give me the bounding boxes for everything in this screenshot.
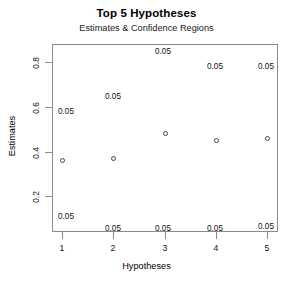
- y-tick-label-2: 0.4: [31, 143, 41, 163]
- data-point-marker-5: [265, 136, 270, 141]
- x-tick-label-0: 1: [52, 243, 72, 253]
- y-tick-label-0: 0.8: [31, 53, 41, 73]
- x-tick-label-2: 3: [155, 243, 175, 253]
- x-tick-mark-4: [267, 232, 268, 239]
- x-tick-label-1: 2: [103, 243, 123, 253]
- confidence-upper-label-3: 0.05: [143, 47, 183, 56]
- x-tick-mark-1: [113, 232, 114, 239]
- confidence-lower-label-5: 0.05: [246, 222, 286, 231]
- confidence-lower-label-2: 0.05: [93, 224, 133, 233]
- data-point-marker-3: [163, 131, 168, 136]
- y-tick-mark-0: [45, 62, 52, 63]
- chart-subtitle: Estimates & Confidence Regions: [0, 23, 293, 33]
- y-tick-label-3: 0.2: [31, 187, 41, 207]
- data-point-marker-2: [111, 156, 116, 161]
- x-axis-title: Hypotheses: [0, 261, 293, 271]
- x-tick-mark-2: [165, 232, 166, 239]
- x-tick-label-3: 4: [206, 243, 226, 253]
- x-tick-mark-0: [62, 232, 63, 239]
- confidence-upper-label-4: 0.05: [195, 62, 235, 71]
- data-point-marker-4: [214, 138, 219, 143]
- plot-area: [52, 44, 278, 232]
- confidence-lower-label-1: 0.05: [46, 212, 86, 221]
- chart-container: Top 5 Hypotheses Estimates & Confidence …: [0, 0, 293, 287]
- confidence-lower-label-4: 0.05: [195, 224, 235, 233]
- x-tick-mark-3: [216, 232, 217, 239]
- confidence-upper-label-2: 0.05: [93, 92, 133, 101]
- confidence-upper-label-5: 0.05: [246, 62, 286, 71]
- chart-title: Top 5 Hypotheses: [0, 7, 293, 19]
- y-axis-title: Estimates: [7, 96, 17, 176]
- confidence-upper-label-1: 0.05: [46, 107, 86, 116]
- confidence-lower-label-3: 0.05: [143, 224, 183, 233]
- y-tick-mark-3: [45, 196, 52, 197]
- y-tick-mark-2: [45, 152, 52, 153]
- data-point-marker-1: [60, 158, 65, 163]
- y-tick-label-1: 0.6: [31, 98, 41, 118]
- x-tick-label-4: 5: [257, 243, 277, 253]
